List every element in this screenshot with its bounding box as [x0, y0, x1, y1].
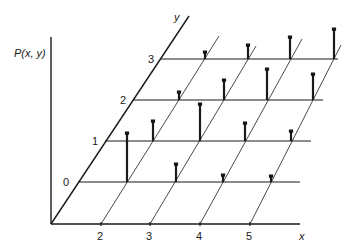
spike-cap: [174, 163, 177, 165]
x-tick-label: 2: [97, 231, 103, 242]
spike-cap: [203, 51, 206, 53]
diagonal-line: [101, 36, 219, 224]
spike-cap: [221, 174, 224, 176]
spike-cap: [289, 130, 292, 132]
spike-cap: [311, 73, 314, 75]
y-tick-label: 1: [92, 136, 98, 147]
diagonal-line: [150, 46, 256, 224]
diagonal-line: [200, 39, 302, 224]
spike-cap: [332, 28, 335, 30]
joint-probability-diagram: [0, 0, 358, 252]
x-tick-label: 5: [246, 231, 252, 242]
diagonal-line: [250, 45, 341, 224]
spike-cap: [198, 103, 201, 105]
axes: [51, 16, 300, 226]
y-tick-label: 3: [148, 54, 154, 65]
spike-cap: [151, 120, 154, 122]
y-tick-label: 0: [63, 177, 69, 188]
y-axis-label: y: [174, 12, 180, 23]
spike-cap: [243, 122, 246, 124]
spike-cap: [125, 132, 128, 134]
grid-lines: [78, 36, 341, 224]
probability-spikes: [125, 28, 335, 182]
spike-cap: [265, 68, 268, 70]
vertical-axis-label: P(x, y): [14, 48, 46, 59]
spike-cap: [246, 44, 249, 46]
x-axis-label: x: [299, 231, 305, 242]
x-tick-label: 3: [146, 231, 152, 242]
y-tick-label: 2: [120, 95, 126, 106]
spike-cap: [288, 36, 291, 38]
x-tick-label: 4: [196, 231, 202, 242]
spike-cap: [177, 91, 180, 93]
spike-cap: [222, 79, 225, 81]
spike-cap: [269, 175, 272, 177]
